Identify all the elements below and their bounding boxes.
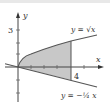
region-diagram: y x 3 4 y = √x y = −¼ x <box>0 0 110 109</box>
lower-curve-label: y = −¼ x <box>60 91 97 100</box>
y-tick-label-3: 3 <box>8 26 13 35</box>
x-axis-arrow-icon <box>98 65 104 69</box>
upper-curve-label: y = √x <box>70 25 96 34</box>
x-tick-label-4: 4 <box>74 72 79 81</box>
y-axis-label: y <box>22 11 28 20</box>
x-axis-label: x <box>96 55 101 64</box>
y-axis-arrow-icon <box>16 12 20 18</box>
